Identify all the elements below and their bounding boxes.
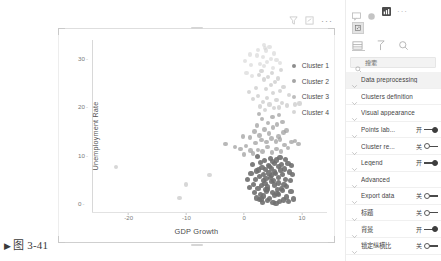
scatter-point[interactable]	[276, 180, 281, 185]
scatter-point[interactable]	[248, 171, 253, 176]
scatter-point[interactable]	[261, 178, 266, 183]
scatter-point[interactable]	[280, 120, 285, 125]
scatter-point[interactable]	[250, 162, 255, 167]
scatter-point[interactable]	[278, 89, 282, 93]
scatter-point[interactable]	[287, 93, 291, 97]
chevron-down-icon[interactable]	[351, 76, 358, 83]
scatter-point[interactable]	[262, 77, 266, 81]
format-section-row[interactable]: Data preprocessing	[346, 72, 441, 89]
paintbrush-icon[interactable]	[375, 37, 386, 48]
scatter-point[interactable]	[250, 74, 254, 78]
scatter-point[interactable]	[251, 97, 255, 101]
format-section-row[interactable]: Advanced	[346, 172, 441, 189]
scatter-point[interactable]	[241, 134, 246, 139]
toggle-knob[interactable]	[432, 127, 438, 133]
more-options-icon[interactable]: ···	[321, 18, 333, 24]
format-section-row[interactable]: Cluster re...关	[346, 138, 441, 155]
scatter-point[interactable]	[296, 142, 301, 147]
scatter-point[interactable]	[256, 48, 260, 52]
scatter-point[interactable]	[267, 45, 271, 49]
comment-icon[interactable]	[352, 7, 361, 16]
resize-handle-bottom-right[interactable]	[328, 236, 335, 243]
scatter-point[interactable]	[233, 145, 238, 150]
toggle-switch[interactable]: 开	[416, 225, 438, 234]
scatter-point[interactable]	[256, 94, 260, 98]
scatter-point[interactable]	[252, 190, 257, 195]
chevron-down-icon[interactable]	[351, 159, 358, 166]
chevron-down-icon[interactable]	[351, 109, 358, 116]
scatter-point[interactable]	[259, 69, 263, 73]
scatter-point[interactable]	[272, 51, 276, 55]
scatter-point[interactable]	[259, 196, 264, 201]
toggle-knob[interactable]	[424, 143, 430, 149]
toggle-switch[interactable]: 关	[416, 191, 438, 200]
resize-handle-bottom-left[interactable]	[58, 236, 65, 243]
toggle-knob[interactable]	[424, 243, 430, 249]
scatter-point[interactable]	[248, 148, 253, 153]
scatter-point[interactable]	[273, 201, 278, 206]
scatter-point[interactable]	[271, 91, 275, 95]
scatter-point[interactable]	[262, 64, 266, 68]
visualizations-icon[interactable]	[382, 7, 391, 16]
toggle-knob[interactable]	[432, 160, 438, 166]
legend-item[interactable]: Cluster 3	[292, 93, 329, 100]
scatter-point[interactable]	[177, 196, 181, 200]
scatter-point[interactable]	[273, 80, 277, 84]
legend-item[interactable]: Cluster 1	[292, 62, 329, 69]
scatter-point[interactable]	[264, 87, 268, 91]
toggle-track[interactable]	[424, 159, 438, 166]
scatter-point[interactable]	[265, 96, 269, 100]
toggle-knob[interactable]	[432, 226, 438, 232]
scatter-point[interactable]	[265, 198, 270, 203]
scatter-point[interactable]	[259, 138, 264, 143]
scatter-point[interactable]	[279, 149, 284, 154]
scatter-point[interactable]	[278, 61, 282, 65]
format-section-row[interactable]: Legend开	[346, 155, 441, 172]
scatter-point[interactable]	[270, 150, 275, 155]
scatter-point[interactable]	[253, 141, 258, 146]
search-input[interactable]: 搜索	[350, 57, 436, 68]
scatter-point[interactable]	[267, 164, 272, 169]
scatter-point[interactable]	[248, 135, 253, 140]
scatter-point[interactable]	[257, 73, 261, 77]
chevron-down-icon[interactable]	[351, 143, 358, 150]
scatter-point[interactable]	[286, 146, 291, 151]
scatter-point[interactable]	[288, 178, 293, 183]
scatter-point[interactable]	[184, 182, 188, 186]
chevron-down-icon[interactable]	[351, 226, 358, 233]
scatter-point[interactable]	[260, 149, 265, 154]
scatter-point[interactable]	[291, 196, 296, 201]
scatter-point[interactable]	[277, 105, 281, 109]
format-section-list[interactable]: Data preprocessingClusters definitionVis…	[346, 72, 441, 255]
scatter-point[interactable]	[261, 100, 265, 104]
toggle-knob[interactable]	[424, 210, 430, 216]
scatter-point[interactable]	[263, 187, 268, 192]
scatter-point[interactable]	[262, 127, 267, 132]
scatter-point[interactable]	[269, 136, 274, 141]
chevron-down-icon[interactable]	[351, 209, 358, 216]
format-section-row[interactable]: Export data关	[346, 188, 441, 205]
scatter-point[interactable]	[287, 169, 292, 174]
scatter-point[interactable]	[255, 123, 260, 128]
chart-legend[interactable]: Cluster 1Cluster 2Cluster 3Cluster 4	[292, 62, 329, 116]
format-section-row[interactable]: Clusters definition	[346, 89, 441, 106]
scatter-point[interactable]	[266, 75, 270, 79]
scatter-point[interactable]	[247, 185, 252, 190]
scatter-point[interactable]	[264, 140, 269, 145]
scatter-point[interactable]	[244, 71, 248, 75]
toggle-switch[interactable]: 开	[416, 158, 438, 167]
toggle-switch[interactable]: 关	[416, 241, 438, 250]
toggle-track[interactable]	[424, 143, 438, 150]
scatter-point[interactable]	[268, 175, 273, 180]
format-section-row[interactable]: Visual appearance	[346, 105, 441, 122]
toggle-track[interactable]	[424, 242, 438, 249]
scatter-point[interactable]	[277, 155, 282, 160]
chevron-down-icon[interactable]	[351, 93, 358, 100]
legend-item[interactable]: Cluster 2	[292, 78, 329, 85]
scatter-point[interactable]	[114, 165, 118, 169]
scatter-point[interactable]	[278, 167, 283, 172]
scatter-point[interactable]	[254, 168, 259, 173]
scatter-point[interactable]	[269, 57, 273, 61]
resize-handle-bottom-center[interactable]	[191, 244, 203, 246]
format-section-row[interactable]: 背景开	[346, 221, 441, 238]
